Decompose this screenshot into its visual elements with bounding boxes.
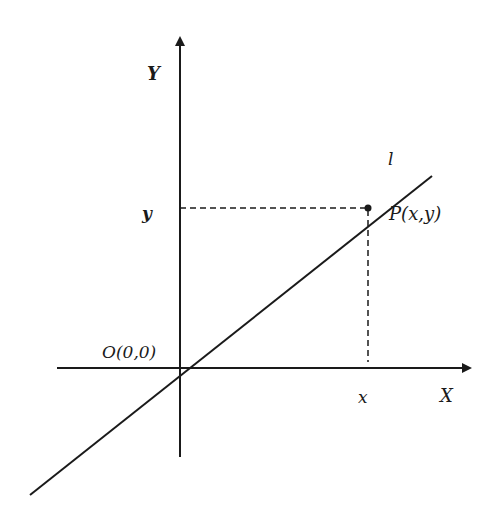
origin-label: O(0,0) (102, 342, 156, 362)
point-p-label: P(x,y) (388, 203, 441, 224)
line-l (30, 176, 432, 495)
point-p-marker (365, 205, 372, 212)
point-y-coordinate-label: y (141, 203, 153, 223)
coordinate-diagram: Y X O(0,0) l P(x,y) y x (0, 0, 502, 522)
y-axis-label: Y (147, 63, 162, 84)
x-axis-label: X (438, 385, 454, 406)
line-l-label: l (388, 149, 393, 169)
point-x-coordinate-label: x (358, 387, 368, 407)
